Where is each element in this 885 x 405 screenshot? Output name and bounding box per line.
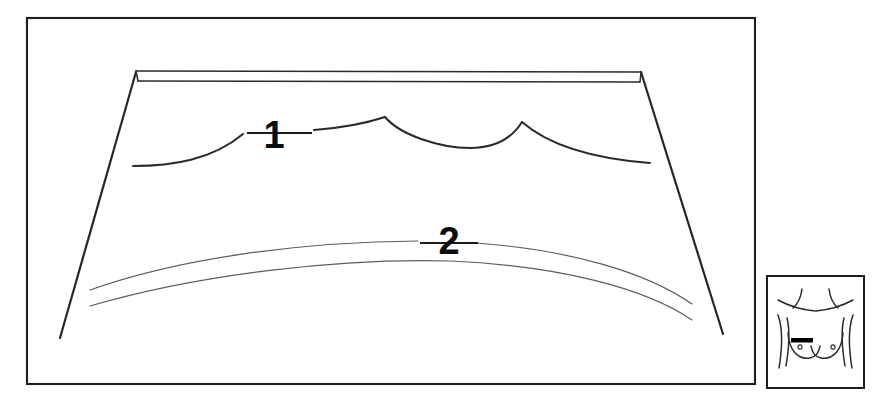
torso-nipple-right: [831, 345, 835, 349]
drape-left-edge: [60, 72, 136, 338]
callout-2-label: 2: [438, 220, 459, 262]
callout-1-group[interactable]: 1: [247, 114, 312, 156]
surgical-marker-bar: [791, 338, 813, 343]
torso-contour-left-outer: [778, 315, 782, 368]
drape-right-edge: [641, 72, 723, 334]
torso-neck-right-line: [829, 289, 838, 308]
lower-fold-curves-group: [90, 241, 692, 320]
torso-contour-left-inner: [786, 318, 789, 366]
upper-scalloped-edge-group: [133, 117, 650, 166]
drape-trapezoid: [60, 71, 723, 338]
torso-nipple-left: [798, 345, 802, 349]
drape-top-band-lower-line: [138, 81, 640, 82]
scallop-segment-left-to-apex: [314, 117, 385, 130]
drape-top-band-left-cap: [136, 71, 138, 81]
illustration-canvas: 1 2: [0, 0, 885, 405]
drape-top-band-upper-line: [136, 71, 641, 72]
scallop-segment-left: [133, 134, 243, 166]
scallop-segment-right: [522, 122, 650, 163]
callout-2-group[interactable]: 2: [420, 220, 478, 262]
torso-contour-right-outer: [850, 315, 854, 368]
torso-inset-thumbnail[interactable]: [767, 276, 864, 388]
lower-fold-upper-right: [476, 243, 692, 304]
torso-contour-right-inner: [842, 318, 845, 366]
callout-1-label: 1: [263, 114, 284, 156]
lower-fold-lower: [90, 261, 692, 320]
drape-top-band-right-cap: [640, 72, 641, 82]
scallop-segment-middle-valley: [385, 117, 522, 148]
figure-root: 1 2: [0, 0, 885, 405]
lower-fold-upper-left: [90, 241, 418, 290]
torso-neck-left-line: [793, 289, 802, 308]
